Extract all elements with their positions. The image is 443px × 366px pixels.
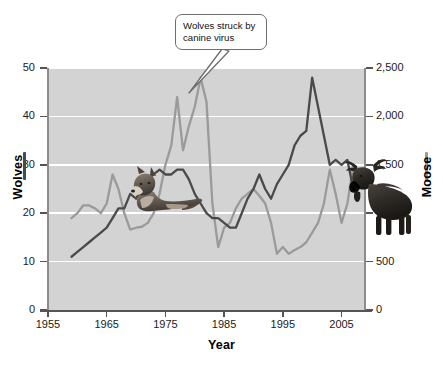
y-axis-left-tick-label: 40 [23, 110, 35, 121]
annotation-line-2: canine virus [183, 32, 259, 44]
x-axis-tick [106, 311, 108, 317]
y-axis-left-tick-label: 0 [29, 304, 35, 315]
y-axis-left-tick [40, 309, 47, 311]
y-axis-right-tick [366, 309, 373, 311]
y-axis-right-title: Moose [420, 142, 434, 212]
y-axis-left-spine [47, 68, 49, 311]
x-axis-tick-label: 2005 [317, 319, 367, 330]
plot-area [48, 68, 365, 310]
wolf-photo [126, 160, 204, 220]
x-axis-tick-label: 1975 [140, 319, 190, 330]
y-axis-left-tick-label: 10 [23, 256, 35, 267]
series-container [48, 68, 365, 310]
y-axis-left-tick [40, 164, 47, 166]
x-axis-tick [165, 311, 167, 317]
x-axis-tick-label: 1955 [23, 319, 73, 330]
x-axis-spine [40, 310, 372, 312]
callout-pointer-icon [186, 48, 230, 94]
y-axis-left-tick [40, 261, 47, 263]
y-axis-right-tick [366, 261, 373, 263]
x-axis-tick [341, 311, 343, 317]
x-axis-tick [47, 311, 49, 317]
y-axis-left-tick [40, 212, 47, 214]
y-axis-right-tick-label: 2,000 [376, 110, 404, 121]
y-axis-right-tick [366, 67, 373, 69]
x-axis-tick-label: 1985 [199, 319, 249, 330]
y-axis-right-tick-label: 2,500 [376, 62, 404, 73]
y-axis-right-tick-label: 0 [376, 304, 382, 315]
series-line-moose [71, 78, 359, 254]
y-axis-left-title: Wolves [11, 142, 25, 212]
y-axis-right-tick [366, 116, 373, 118]
x-axis-tick-label: 1995 [258, 319, 308, 330]
y-axis-left-tick [40, 67, 47, 69]
y-axis-right-tick-label: 500 [376, 256, 394, 267]
x-axis-tick [223, 311, 225, 317]
chart-figure: 01020304050 05001,0001,5002,0002,500 195… [0, 0, 443, 366]
x-axis-title: Year [0, 338, 443, 352]
x-axis-tick-label: 1965 [82, 319, 132, 330]
annotation-line-1: Wolves struck by [183, 20, 259, 32]
y-axis-left-tick [40, 116, 47, 118]
annotation-callout: Wolves struck by canine virus [175, 14, 267, 50]
x-axis-tick [282, 311, 284, 317]
moose-photo [343, 150, 415, 236]
y-axis-left-tick-label: 50 [23, 62, 35, 73]
